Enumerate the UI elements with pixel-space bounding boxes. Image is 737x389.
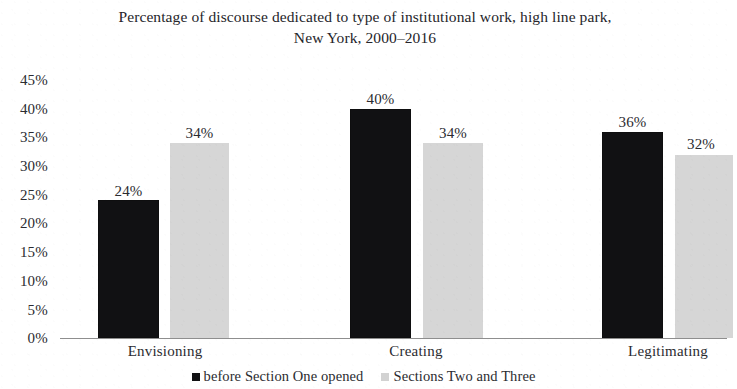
bar-creating-before-section-one-opened [350, 109, 411, 338]
y-axis-tick-25: 25% [2, 188, 48, 203]
y-axis-tick-35: 35% [2, 130, 48, 145]
bar-value-envisioning-sections-two-and-three: 34% [170, 126, 229, 141]
x-axis-category-envisioning: Envisioning [90, 343, 240, 360]
bar-legitimating-before-section-one-opened [602, 132, 663, 338]
legend-swatch-icon-light [381, 373, 389, 381]
legend-label-sections-two-and-three: Sections Two and Three [393, 368, 535, 385]
bar-value-creating-before-section-one-opened: 40% [350, 92, 411, 107]
bar-value-creating-sections-two-and-three: 34% [423, 126, 483, 141]
legend-label-before-section-one-opened: before Section One opened [204, 368, 364, 385]
y-axis-tick-40: 40% [2, 102, 48, 117]
bar-value-legitimating-before-section-one-opened: 36% [602, 115, 663, 130]
legend-item-sections-two-and-three: Sections Two and Three [381, 368, 535, 385]
bar-envisioning-before-section-one-opened [98, 200, 159, 338]
y-axis-tick-5: 5% [2, 303, 48, 318]
bar-value-envisioning-before-section-one-opened: 24% [98, 184, 159, 199]
y-axis-tick-30: 30% [2, 159, 48, 174]
bar-value-legitimating-sections-two-and-three: 32% [672, 137, 730, 152]
chart-legend: before Section One opened Sections Two a… [0, 368, 727, 385]
y-axis-tick-45: 45% [2, 73, 48, 88]
y-axis-tick-20: 20% [2, 216, 48, 231]
y-axis-tick-15: 15% [2, 245, 48, 260]
bar-creating-sections-two-and-three [423, 143, 483, 338]
y-axis-tick-10: 10% [2, 274, 48, 289]
bar-legitimating-sections-two-and-three [675, 155, 733, 339]
x-axis-baseline [60, 338, 727, 339]
bar-envisioning-sections-two-and-three [170, 143, 229, 338]
x-axis-category-legitimating: Legitimating [593, 343, 737, 360]
y-axis-tick-0: 0% [2, 331, 48, 346]
legend-item-before-section-one-opened: before Section One opened [192, 368, 364, 385]
legend-swatch-icon-dark [192, 373, 200, 381]
x-axis-category-creating: Creating [341, 343, 491, 360]
